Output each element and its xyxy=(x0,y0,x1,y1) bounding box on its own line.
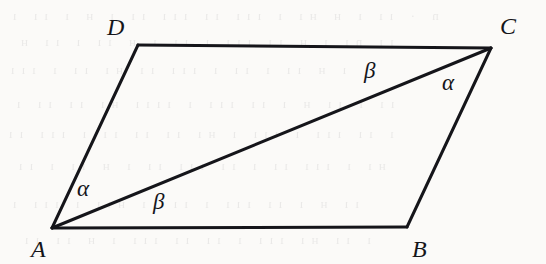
angle-label-beta-at-A: β xyxy=(153,190,164,213)
edge-AB xyxy=(52,227,407,228)
angle-label-alpha-at-A: α xyxy=(77,177,89,200)
vertex-label-B: B xyxy=(412,237,427,261)
angle-label-alpha-at-C: α xyxy=(442,71,454,94)
vertex-label-A: A xyxy=(31,237,46,261)
parallelogram-shape xyxy=(0,0,546,264)
parallelogram-figure: n · ıı ı н нı ı ııı ıı ııı ıı ı н ı ıı ı… xyxy=(0,0,546,264)
diagonal-AC xyxy=(52,48,491,228)
edge-CD xyxy=(138,45,491,48)
edge-DA xyxy=(52,45,138,228)
angle-label-beta-at-C: β xyxy=(364,59,375,82)
vertex-label-C: C xyxy=(500,14,516,38)
vertex-label-D: D xyxy=(107,15,124,39)
